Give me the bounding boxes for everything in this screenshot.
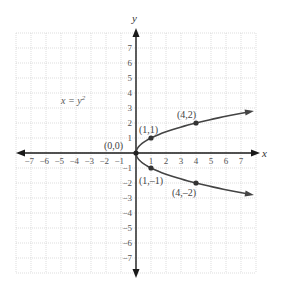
y-axis-up-arrow-icon <box>133 28 140 37</box>
y-tick-label: 5 <box>128 73 133 83</box>
y-tick-label: −6 <box>122 238 132 248</box>
parabola-graph: −7−6−5−4−3−2−11234567−7−6−5−4−3−2−112345… <box>0 0 284 294</box>
y-tick-label: 3 <box>128 103 133 113</box>
y-axis-label: y <box>131 12 137 24</box>
y-tick-label: −4 <box>122 208 132 218</box>
point-1-1 <box>148 135 153 140</box>
y-tick-label: 1 <box>128 133 133 143</box>
x-axis-label: x <box>261 147 267 159</box>
curve-upper-arrow-icon <box>245 110 254 116</box>
label-4-neg2: (4,–2) <box>172 187 196 199</box>
y-tick-label: 4 <box>128 88 133 98</box>
point-4-neg2 <box>193 180 198 185</box>
y-tick-label: −7 <box>122 253 132 263</box>
x-tick-label: −6 <box>39 156 49 166</box>
y-tick-label: 7 <box>128 43 133 53</box>
x-tick-label: −7 <box>24 156 34 166</box>
y-tick-label: −5 <box>122 223 132 233</box>
y-tick-label: −1 <box>122 163 132 173</box>
x-axis-left-arrow-icon <box>16 150 25 157</box>
x-tick-label: 7 <box>239 156 244 166</box>
y-axis-down-arrow-icon <box>133 269 140 278</box>
y-tick-label: 6 <box>128 58 133 68</box>
point-1-neg1 <box>148 165 153 170</box>
x-tick-label: 4 <box>194 156 199 166</box>
x-tick-label: 1 <box>149 156 154 166</box>
y-tick-label: 2 <box>128 118 133 128</box>
label-1-neg1: (1,–1) <box>139 175 163 187</box>
x-tick-label: 2 <box>164 156 169 166</box>
x-tick-label: 3 <box>179 156 184 166</box>
x-tick-label: −4 <box>69 156 79 166</box>
equation-label: x = y2 <box>60 94 86 106</box>
x-axis-right-arrow-icon <box>251 150 260 157</box>
x-tick-label: −2 <box>99 156 109 166</box>
label-1-1: (1,1) <box>139 124 158 136</box>
y-tick-label: −3 <box>122 193 132 203</box>
y-tick-label: −2 <box>122 178 132 188</box>
point-origin <box>133 150 138 155</box>
label-origin: (0,0) <box>104 140 123 152</box>
x-tick-label: 6 <box>224 156 229 166</box>
x-tick-label: 5 <box>209 156 214 166</box>
curve-lower-arrow-icon <box>245 191 254 197</box>
x-tick-label: −5 <box>54 156 64 166</box>
x-tick-label: −3 <box>84 156 94 166</box>
label-4-2: (4,2) <box>177 109 196 121</box>
point-4-2 <box>193 120 198 125</box>
